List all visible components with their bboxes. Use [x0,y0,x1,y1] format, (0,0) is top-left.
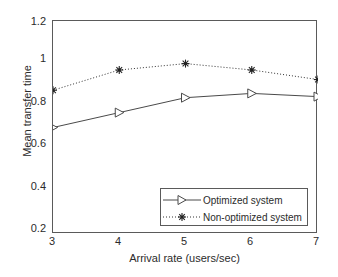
legend-label: Non-optimized system [203,212,302,223]
xtick-label: 6 [235,236,265,247]
series-non-optimized-system [53,60,318,95]
legend-label: Optimized system [203,195,282,206]
ytick-label: 1.2 [31,16,46,27]
y-axis-title: Mean transfer time [21,31,33,191]
figure-canvas: 1.2 1 0.8 0.6 0.4 0.2 3 4 5 6 7 Arrival … [0,0,338,277]
ytick-label: 0.2 [31,223,46,234]
xtick-label: 4 [103,236,133,247]
xtick-label: 5 [169,236,199,247]
ytick-label: 1 [40,53,46,64]
xtick-label: 3 [37,236,67,247]
legend-sample-dotted-star-icon [161,210,203,224]
legend-entry-non-optimized: Non-optimized system [161,209,307,225]
legend-box: Optimized system Non-optimized system [160,188,308,226]
series-optimized-system [53,89,318,132]
legend-sample-solid-triangle-icon [161,193,203,207]
legend-entry-optimized: Optimized system [161,192,307,208]
xtick-label: 7 [301,236,331,247]
x-axis-title: Arrival rate (users/sec) [52,252,317,264]
